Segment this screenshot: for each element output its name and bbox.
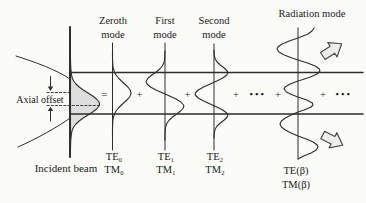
plus-sign-2: + [185, 90, 191, 101]
radiation-mode-title: Radiation mode [279, 9, 346, 20]
axial-offset-label: Axial offset [16, 95, 63, 105]
te-beta-label: TE(β) [283, 166, 308, 177]
radiation-arrow-bottom-icon [319, 127, 347, 152]
zeroth-mode-title-line1: Zeroth [99, 16, 127, 27]
mode2-profile-curve [195, 50, 228, 138]
second-mode-title-line1: Second [199, 16, 230, 27]
mode0-profile-curve [113, 51, 132, 135]
zeroth-mode-title-line2: mode [101, 29, 124, 40]
tm0-label: TM₀ [104, 165, 123, 176]
te1-label: TE₁ [158, 152, 175, 163]
second-mode-title-line2: mode [202, 29, 225, 40]
plus-sign-5: + [320, 90, 326, 101]
offset-arrow-up-icon [48, 107, 53, 121]
incident-beam-label: Incident beam [35, 163, 98, 174]
te0-label: TE₀ [106, 152, 123, 163]
te2-label: TE₂ [207, 152, 224, 163]
tm-beta-label: TM(β) [282, 180, 310, 191]
tm1-label: TM₁ [156, 165, 175, 176]
plus-sign-3: + [233, 90, 239, 101]
ellipsis-dots-2: ••• [336, 90, 352, 99]
equals-sign: = [102, 90, 108, 101]
ellipsis-dots-1: ••• [250, 90, 266, 99]
tm2-label: TM₂ [205, 165, 224, 176]
incident-beam-profile [71, 57, 100, 151]
first-mode-title-line1: First [155, 16, 174, 27]
plus-sign-4: + [275, 90, 281, 101]
plus-sign-1: + [137, 90, 143, 101]
offset-arrow-down-icon [48, 77, 53, 92]
mode-decomposition-figure: Zeroth mode First mode Second mode Radia… [0, 0, 366, 203]
beam-envelope-bottom-curve [18, 118, 70, 147]
radiation-arrow-top-icon [318, 37, 346, 64]
first-mode-title-line2: mode [153, 29, 176, 40]
beam-envelope-top-curve [16, 56, 70, 79]
